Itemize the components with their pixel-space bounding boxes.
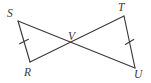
segment-r-t — [30, 16, 124, 62]
vertex-label-u: U — [134, 69, 142, 81]
figure-canvas — [0, 0, 151, 83]
vertex-label-r: R — [24, 67, 31, 79]
geometry-figure: S R T U V — [0, 0, 151, 83]
vertex-label-v: V — [68, 31, 75, 43]
segment-s-u — [18, 21, 135, 68]
vertex-label-t: T — [118, 2, 124, 14]
vertex-label-s: S — [7, 8, 13, 20]
